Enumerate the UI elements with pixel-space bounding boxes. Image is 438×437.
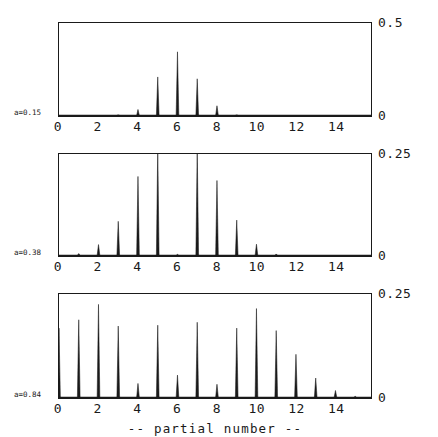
x-tick-label: 12: [288, 119, 305, 134]
spectral-peak: [156, 77, 159, 115]
x-tick-label: 14: [328, 119, 345, 134]
panel-1-spectrum-svg: [59, 23, 371, 116]
x-tick-label: 10: [248, 119, 265, 134]
spectral-peak: [156, 154, 159, 255]
spectral-peak: [334, 391, 337, 398]
x-tick-label: 14: [328, 259, 345, 274]
spectral-peak: [216, 106, 219, 116]
x-tick-label: 2: [94, 259, 102, 274]
spectral-peak: [196, 154, 199, 255]
panel-3-ytop-label: 0.25: [378, 286, 411, 301]
spectral-peak: [216, 181, 219, 256]
x-tick-label: 8: [213, 259, 221, 274]
x-tick-label: 6: [173, 119, 181, 134]
panel-3-side-label: a=0.84: [14, 390, 56, 399]
panel-a-0-38: a=0.38 0.25 0 02468101214: [0, 140, 438, 285]
x-tick-label: 8: [213, 119, 221, 134]
spectral-peak: [77, 320, 80, 398]
panel-1-xticks: 02468101214: [58, 119, 372, 137]
spectral-peak: [137, 176, 140, 255]
x-tick-label: 0: [54, 401, 62, 416]
x-tick-label: 6: [173, 401, 181, 416]
xaxis-title: -- partial number --: [58, 421, 372, 436]
spectral-peak: [275, 331, 278, 398]
spectral-peak: [275, 254, 278, 255]
x-tick-label: 12: [288, 401, 305, 416]
x-tick-label: 2: [94, 401, 102, 416]
panel-1-plot-frame: [58, 22, 372, 117]
spectral-peak: [235, 220, 238, 255]
panel-1-ytop-label: 0.5: [378, 15, 403, 30]
x-tick-label: 0: [54, 259, 62, 274]
spectral-peak: [354, 396, 357, 397]
spectral-peak: [216, 384, 219, 397]
spectral-peak: [196, 322, 199, 397]
panel-2-ybot-label: 0: [378, 248, 386, 263]
x-tick-label: 8: [213, 401, 221, 416]
x-tick-label: 10: [248, 259, 265, 274]
spectral-peak: [156, 325, 159, 397]
spectrum-figure: a=0.15 0.5 0 02468101214 a=0.38 0.25 0 0…: [0, 0, 438, 437]
x-tick-label: 6: [173, 259, 181, 274]
x-tick-label: 14: [328, 401, 345, 416]
panel-2-ytop-label: 0.25: [378, 146, 411, 161]
panel-3-plot-frame: [58, 293, 372, 399]
x-tick-label: 4: [133, 119, 141, 134]
spectral-peak: [97, 245, 100, 256]
panel-1-side-label: a=0.15: [14, 108, 56, 117]
panel-2-side-label: a=0.38: [14, 248, 56, 257]
spectral-peak: [255, 309, 258, 398]
x-tick-label: 2: [94, 119, 102, 134]
spectral-peak: [235, 328, 238, 397]
spectral-peak: [97, 304, 100, 397]
spectral-peak: [176, 375, 179, 397]
panel-a-0-84: a=0.84 0.25 0 02468101214 -- partial num…: [0, 285, 438, 437]
spectral-peak: [77, 254, 80, 256]
panel-3-xticks: 02468101214: [58, 401, 372, 419]
spectral-peak: [295, 354, 298, 397]
panel-a-0-15: a=0.15 0.5 0 02468101214: [0, 0, 438, 140]
panel-3-spectrum-svg: [59, 294, 371, 398]
spectral-peak: [255, 244, 258, 255]
panel-2-xticks: 02468101214: [58, 259, 372, 277]
panel-2-spectrum-svg: [59, 154, 371, 256]
x-tick-label: 0: [54, 119, 62, 134]
spectral-peak: [137, 109, 140, 115]
x-tick-label: 4: [133, 259, 141, 274]
spectral-peak: [314, 378, 317, 397]
spectral-peak: [59, 328, 60, 397]
spectral-peak: [137, 383, 140, 397]
spectral-peak: [176, 52, 179, 116]
panel-2-plot-frame: [58, 153, 372, 257]
spectral-peak: [117, 221, 120, 255]
spectral-peak: [117, 326, 120, 397]
x-tick-label: 10: [248, 401, 265, 416]
panel-3-ybot-label: 0: [378, 390, 386, 405]
x-tick-label: 12: [288, 259, 305, 274]
x-tick-label: 4: [133, 401, 141, 416]
spectral-peak: [176, 254, 179, 255]
spectral-peak: [196, 79, 199, 116]
panel-1-ybot-label: 0: [378, 108, 386, 123]
